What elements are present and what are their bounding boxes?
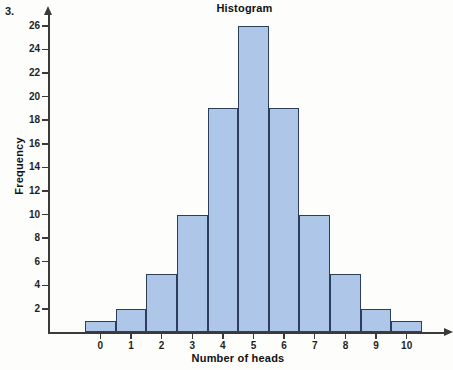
histogram-bar [85,321,116,333]
histogram-bar [269,108,300,332]
x-axis-tick [130,333,131,339]
x-axis-tick-label: 0 [85,340,115,351]
y-axis-tick [42,190,49,192]
y-axis-tick [42,214,49,216]
x-axis-tick-label: 3 [177,340,207,351]
x-axis-tick [375,333,376,339]
y-axis-tick-label: 26 [4,20,40,31]
y-axis-tick [42,143,49,145]
x-axis-tick [314,333,315,339]
x-axis-tick [192,333,193,339]
histogram-figure: 3. Histogram 2468101214161820222426 0123… [0,0,453,370]
y-axis-title: Frequency [13,111,25,221]
y-axis-tick [42,308,49,310]
y-axis-tick-label: 4 [4,279,40,290]
y-axis-tick-label: 2 [4,303,40,314]
y-axis-tick [42,285,49,287]
y-axis-tick [42,49,49,51]
y-axis-tick [42,167,49,169]
x-axis-tick [161,333,162,339]
y-axis-tick [42,119,49,121]
y-axis-tick [42,237,49,239]
x-axis-tick-label: 1 [116,340,146,351]
x-axis-tick-label: 10 [392,340,422,351]
histogram-bar [146,274,177,333]
y-axis-arrow-icon [44,6,52,15]
y-axis-tick-label: 8 [4,232,40,243]
y-axis-tick [42,96,49,98]
y-axis-tick [42,25,49,27]
x-axis-tick-label: 5 [239,340,269,351]
x-axis-tick-label: 9 [361,340,391,351]
histogram-bar [391,321,422,333]
plot-area: 2468101214161820222426 012345678910 Freq… [0,0,453,370]
histogram-bar [299,215,330,333]
y-axis-tick-label: 20 [4,91,40,102]
histogram-bar [361,309,392,333]
x-axis-arrow-icon [444,328,453,336]
histogram-bar [177,215,208,333]
x-axis-tick [222,333,223,339]
x-axis-tick-label: 4 [208,340,238,351]
x-axis-tick [100,333,101,339]
x-axis-tick [253,333,254,339]
histogram-bar [116,309,147,333]
x-axis-tick [345,333,346,339]
x-axis-tick-label: 6 [269,340,299,351]
x-axis-tick [406,333,407,339]
histogram-bar [330,274,361,333]
histogram-bar [208,108,239,332]
y-axis-tick [42,72,49,74]
y-axis-tick [42,261,49,263]
y-axis-tick-label: 6 [4,256,40,267]
x-axis-tick-label: 8 [330,340,360,351]
x-axis-title: Number of heads [48,352,428,364]
y-axis-tick-label: 24 [4,43,40,54]
x-axis-tick-label: 7 [300,340,330,351]
y-axis-tick-label: 22 [4,67,40,78]
x-axis-tick-label: 2 [147,340,177,351]
x-axis-tick [283,333,284,339]
histogram-bar [238,26,269,333]
